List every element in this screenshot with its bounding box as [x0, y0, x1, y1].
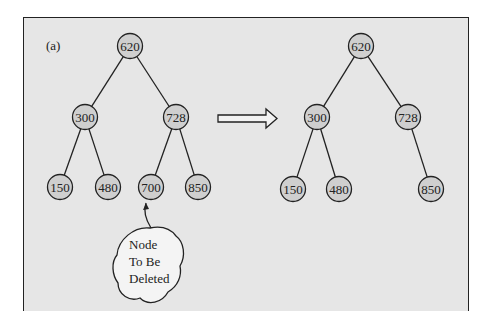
before-edge-620-728	[137, 56, 169, 106]
before-edge-620-300	[92, 57, 124, 107]
after-node-850: 850	[419, 177, 444, 202]
before-node-700: 700	[139, 175, 164, 200]
before-node-620: 620	[118, 34, 143, 59]
after-node-150: 150	[281, 177, 306, 202]
before-node-480: 480	[96, 175, 121, 200]
after-edge-728-850	[412, 129, 427, 177]
after-node-480: 480	[327, 177, 352, 202]
callout-cloud: Node To Be Deleted	[113, 203, 184, 303]
after-node-300: 300	[305, 105, 330, 130]
node-label: 728	[398, 110, 418, 125]
node-label: 150	[283, 182, 303, 197]
node-label: 620	[120, 39, 140, 54]
before-edge-300-480	[89, 129, 104, 175]
bst-deletion-diagram: (a) 620300728150480700850 62030072815048…	[0, 0, 490, 323]
node-label: 480	[98, 180, 118, 195]
node-label: 620	[351, 39, 371, 54]
before-edge-728-850	[180, 129, 195, 175]
before-node-150: 150	[48, 175, 73, 200]
after-edge-300-480	[321, 129, 336, 177]
after-node-620: 620	[349, 34, 374, 59]
after-edge-620-728	[368, 56, 401, 106]
node-label: 850	[188, 180, 208, 195]
before-node-300: 300	[73, 105, 98, 130]
after-edge-620-300	[324, 57, 355, 107]
after-tree: 620300728150480850	[281, 34, 444, 202]
callout-line-2: To Be	[129, 254, 160, 269]
before-edge-300-150	[64, 129, 81, 175]
after-edge-300-150	[297, 129, 313, 177]
node-label: 728	[166, 110, 186, 125]
before-edge-728-700	[155, 129, 172, 175]
transform-arrow-icon	[218, 109, 277, 128]
callout-line-3: Deleted	[129, 271, 170, 286]
before-node-728: 728	[164, 105, 189, 130]
node-label: 300	[75, 110, 95, 125]
node-label: 300	[307, 110, 327, 125]
before-node-850: 850	[186, 175, 211, 200]
before-tree: 620300728150480700850	[48, 34, 211, 200]
node-label: 850	[421, 182, 441, 197]
after-node-728: 728	[396, 105, 421, 130]
node-label: 150	[50, 180, 70, 195]
node-label: 700	[141, 180, 161, 195]
figure-label: (a)	[46, 38, 60, 53]
callout-line-1: Node	[129, 237, 157, 252]
node-label: 480	[329, 182, 349, 197]
